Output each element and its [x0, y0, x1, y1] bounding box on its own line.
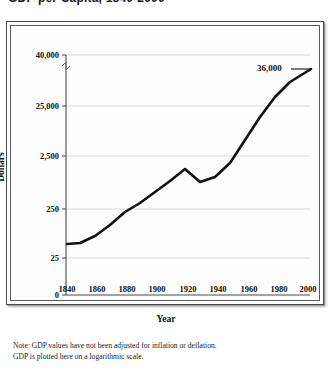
- xtick-label-2000: 2000: [300, 284, 317, 294]
- ytick-label-25: 25: [7, 253, 59, 263]
- axis-break-icon: [62, 62, 70, 70]
- ytick-label-0: 0: [7, 290, 59, 300]
- figure-frame: 40,000 25,000 2,500 250 25 0 1840 1860 1…: [6, 21, 324, 305]
- xtick-label-1940: 1940: [210, 284, 227, 294]
- xtick-label-1860: 1860: [89, 284, 106, 294]
- xtick-label-1920: 1920: [180, 284, 197, 294]
- xtick-label-1980: 1980: [271, 284, 288, 294]
- footnote-line-2: GDP is plotted here on a logarithmic sca…: [13, 352, 313, 363]
- footnote: Note: GDP values have not been adjusted …: [13, 341, 313, 363]
- ytick-label-40000: 40,000: [7, 50, 59, 60]
- y-tick-marks: [62, 55, 66, 295]
- xtick-label-1840: 1840: [59, 284, 76, 294]
- xtick-label-1960: 1960: [241, 284, 258, 294]
- footnote-line-1: Note: GDP values have not been adjusted …: [13, 341, 313, 352]
- endpoint-annotation: 36,000: [257, 63, 282, 73]
- ytick-label-25000: 25,000: [7, 101, 59, 111]
- page-title: GDP per Capita, 1840-2000: [8, 0, 165, 5]
- xtick-label-1900: 1900: [149, 284, 166, 294]
- y-axis-title: Dollars: [0, 152, 6, 182]
- ytick-label-250: 250: [7, 204, 59, 214]
- xtick-label-1880: 1880: [119, 284, 136, 294]
- x-axis-title: Year: [7, 314, 325, 324]
- plot-area: 40,000 25,000 2,500 250 25 0 1840 1860 1…: [7, 22, 325, 306]
- gridlines: [66, 55, 310, 258]
- ytick-label-2500: 2,500: [7, 151, 59, 161]
